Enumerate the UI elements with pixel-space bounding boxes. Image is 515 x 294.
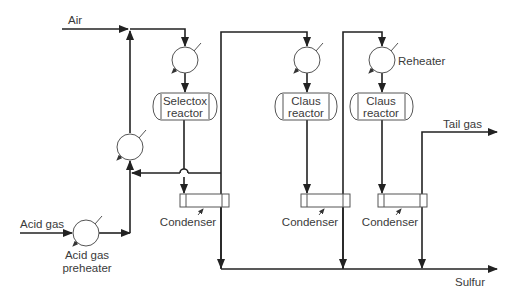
reactor-2-label-line1: Claus [291, 95, 321, 107]
sulfur-recovery-process-diagram: Selectox reactor Claus reactor Claus rea… [0, 0, 515, 294]
condenser-1-label: Condenser [160, 216, 216, 228]
reactor-2-label-line2: reactor [288, 107, 324, 119]
heater-1 [172, 43, 201, 73]
condenser-3 [378, 194, 427, 215]
recycle-hop [180, 169, 188, 173]
preheater-label-line2: preheater [62, 262, 111, 274]
claus-reactor-2: Claus reactor [350, 93, 413, 120]
heater-mid [117, 130, 146, 160]
reactor-3-label-line2: reactor [363, 107, 399, 119]
sulfur-label: Sulfur [455, 276, 485, 288]
preheater-label-line1: Acid gas [65, 249, 109, 261]
air-label: Air [68, 14, 82, 26]
reactor-3-label-line1: Claus [366, 95, 396, 107]
feed-to-heater1-line [130, 29, 185, 46]
reheater [369, 43, 398, 73]
claus-reactor-1: Claus reactor [275, 93, 337, 120]
reheater-label: Reheater [398, 55, 445, 67]
reactor-1-label-line1: Selectox [163, 95, 207, 107]
selectox-reactor: Selectox reactor [153, 93, 217, 120]
acid-gas-label: Acid gas [20, 218, 64, 230]
condenser1-gas-outlet-line [221, 32, 307, 269]
tail-gas-label: Tail gas [443, 118, 482, 130]
condenser-3-label: Condenser [362, 216, 418, 228]
heater-2 [294, 43, 323, 73]
tail-gas-stream-line [422, 132, 497, 194]
condenser-2-label: Condenser [282, 216, 338, 228]
acid-gas-preheater [73, 216, 102, 246]
reactor-1-label-line2: reactor [167, 107, 203, 119]
